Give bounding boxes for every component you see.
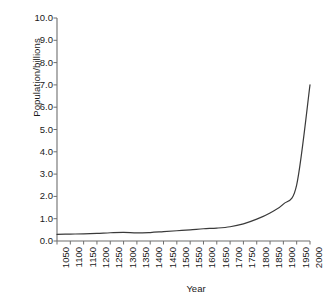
chart-canvas [0,0,330,302]
axis-lines [57,18,310,241]
population-chart-figure: Population/billions 10.09.08.07.06.05.04… [0,0,330,302]
axis-ticks [54,18,311,245]
population-curve [57,85,310,234]
